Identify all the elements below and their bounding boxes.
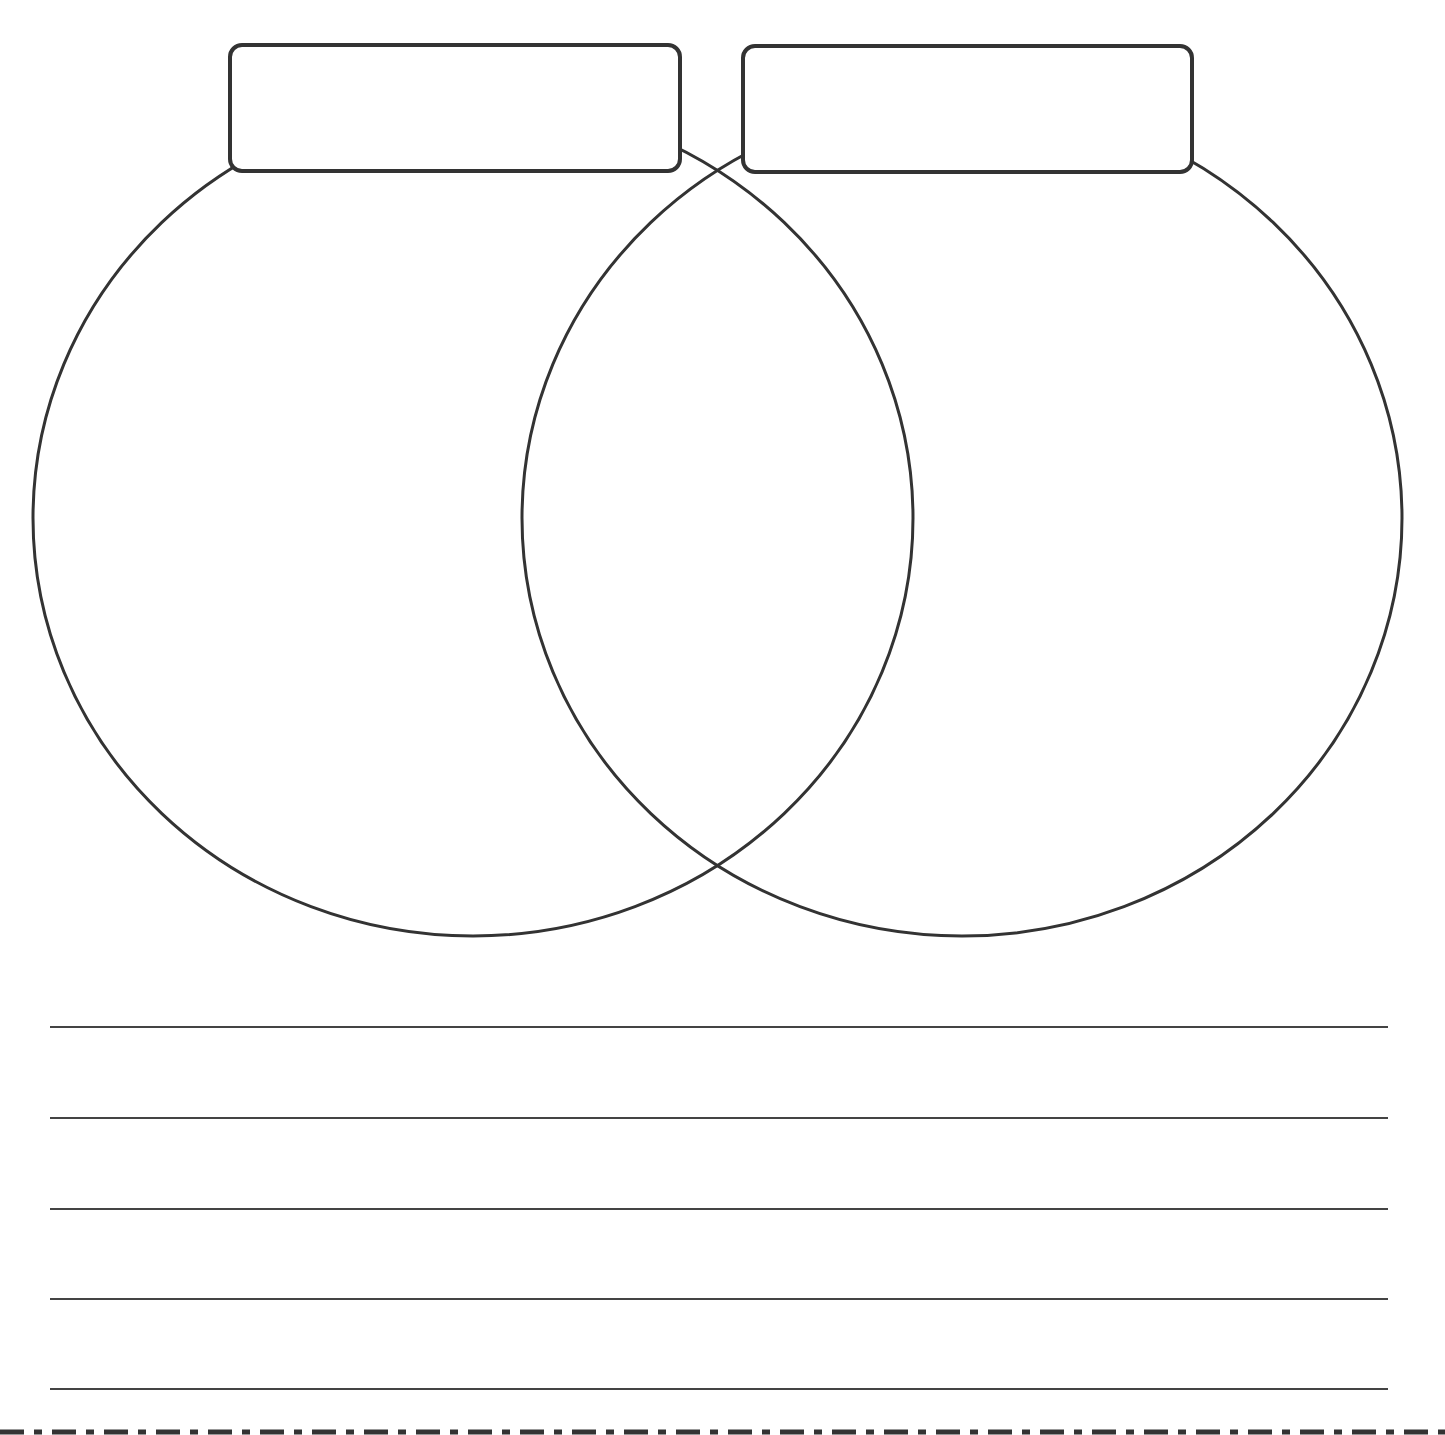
- writing-line-1[interactable]: [50, 1026, 1388, 1028]
- left-circle: [33, 100, 913, 936]
- writing-line-2[interactable]: [50, 1117, 1388, 1119]
- venn-diagram: [0, 0, 1445, 1435]
- left-label-box[interactable]: [228, 43, 682, 173]
- writing-line-4[interactable]: [50, 1298, 1388, 1300]
- right-circle: [522, 100, 1402, 936]
- right-label-box[interactable]: [741, 44, 1194, 174]
- venn-worksheet: [0, 0, 1445, 1435]
- writing-line-3[interactable]: [50, 1208, 1388, 1210]
- writing-line-5[interactable]: [50, 1388, 1388, 1390]
